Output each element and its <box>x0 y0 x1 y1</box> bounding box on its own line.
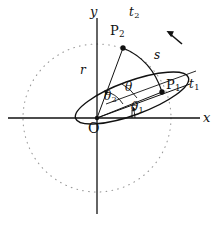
point-label-p1: P1 <box>166 78 181 93</box>
point-label-p2: P2 <box>110 24 125 39</box>
x-axis-label: x <box>203 111 210 124</box>
angle-label-theta2-sub: 2 <box>111 94 117 104</box>
time-label-t2: t2 <box>129 6 139 19</box>
point-label-p1-sub: 1 <box>175 83 181 93</box>
point-label-p2-text: P <box>110 23 119 38</box>
rotation-direction-arrow <box>167 31 183 44</box>
y-axis-label: y <box>90 5 97 18</box>
time-label-t1: t1 <box>189 78 199 91</box>
geometry-figure: x y O P1 P2 t1 t2 θ1 θ2 θ r s <box>0 0 220 226</box>
time-label-t1-sub: 1 <box>194 82 200 92</box>
point-marker-p1 <box>159 89 164 94</box>
radius-line-op2 <box>97 48 123 118</box>
angle-label-theta1: θ1 <box>131 101 144 114</box>
point-marker-p2 <box>120 45 125 50</box>
origin-label: O <box>88 121 99 135</box>
time-label-t2-sub: 2 <box>134 10 140 20</box>
point-label-p1-text: P <box>166 77 175 92</box>
angle-label-theta1-sub: 1 <box>138 105 144 115</box>
angle-label-theta: θ <box>125 81 133 94</box>
angle-label-theta2: θ2 <box>104 90 117 103</box>
length-label-r: r <box>80 64 86 76</box>
length-label-s: s <box>154 49 160 61</box>
point-label-p2-sub: 2 <box>119 29 125 39</box>
